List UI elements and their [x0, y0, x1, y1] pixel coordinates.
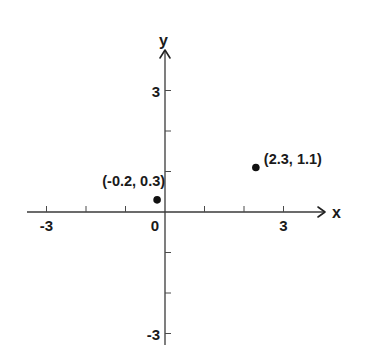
- x-axis: -303 x: [27, 204, 341, 234]
- y-axis-label: y: [159, 32, 168, 49]
- data-point-label: (2.3, 1.1): [264, 151, 322, 167]
- y-tick-label: -3: [147, 326, 160, 343]
- data-point: [153, 196, 161, 204]
- data-point: [252, 164, 260, 172]
- x-tick-label: 3: [279, 217, 287, 234]
- y-tick-label: 3: [152, 83, 160, 100]
- x-tick-label: -3: [40, 217, 53, 234]
- x-tick-labels: -303: [40, 217, 288, 234]
- data-point-label: (-0.2, 0.3): [102, 173, 165, 189]
- coordinate-plane: -303 x 3-3 y (-0.2, 0.3)(2.3, 1.1): [0, 0, 365, 352]
- x-axis-label: x: [332, 204, 341, 221]
- x-tick-label: 0: [151, 217, 159, 234]
- data-points: (-0.2, 0.3)(2.3, 1.1): [102, 151, 322, 203]
